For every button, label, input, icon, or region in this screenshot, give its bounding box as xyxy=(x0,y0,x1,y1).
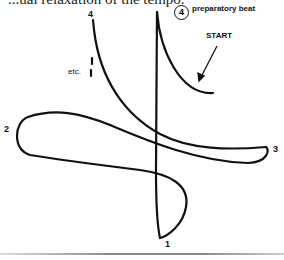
start-label: START xyxy=(206,32,232,40)
etc-label: etc. xyxy=(68,68,81,76)
start-arrow-shaft xyxy=(201,46,217,77)
preparatory-beat-label: preparatory beat xyxy=(192,5,255,13)
stroke-3-to-4 xyxy=(94,30,266,149)
preparatory-stroke xyxy=(157,12,213,93)
prep-beat-number-circle: 4 xyxy=(174,5,189,20)
conducting-pattern-diagram xyxy=(0,0,284,260)
bottom-divider xyxy=(0,253,284,255)
vertical-downstroke xyxy=(156,12,160,238)
beat-label-1: 1 xyxy=(165,240,170,249)
beat-label-3: 3 xyxy=(273,145,278,154)
beat-4-upstroke xyxy=(93,20,94,30)
stroke-to-beat-2 xyxy=(17,112,140,170)
beat-label-2: 2 xyxy=(4,125,9,134)
beat-label-4: 4 xyxy=(88,10,93,19)
beat-1-loop xyxy=(140,170,187,238)
